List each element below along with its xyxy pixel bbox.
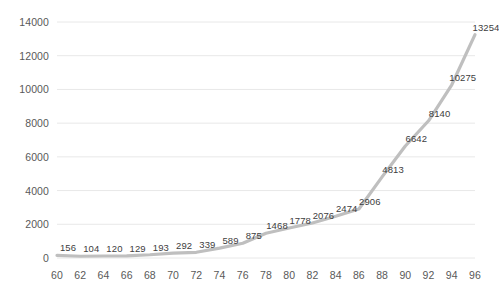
- y-axis-tick-label: 2000: [4, 218, 49, 230]
- data-point-label: 10275: [449, 72, 476, 83]
- x-axis-tick-label: 94: [446, 269, 458, 281]
- data-point-label: 2076: [313, 210, 335, 221]
- data-point-label: 120: [106, 243, 122, 254]
- x-axis-tick-label: 62: [74, 269, 86, 281]
- x-axis-tick-label: 84: [330, 269, 342, 281]
- y-axis-tick-label: 12000: [4, 50, 49, 62]
- data-point-label: 129: [130, 243, 146, 254]
- x-axis-tick-label: 74: [214, 269, 226, 281]
- y-axis-tick-label: 10000: [4, 83, 49, 95]
- data-point-label: 2906: [359, 196, 381, 207]
- x-axis-tick-label: 78: [260, 269, 272, 281]
- x-axis-tick-label: 88: [376, 269, 388, 281]
- x-axis-tick-label: 86: [353, 269, 365, 281]
- data-point-label: 156: [60, 242, 76, 253]
- x-axis-tick-label: 90: [399, 269, 411, 281]
- data-point-label: 1468: [266, 220, 288, 231]
- data-point-label: 104: [83, 243, 99, 254]
- data-point-label: 292: [176, 240, 192, 251]
- data-point-label: 875: [246, 230, 262, 241]
- y-axis-tick-label: 6000: [4, 151, 49, 163]
- x-axis-tick-label: 70: [167, 269, 179, 281]
- x-axis-tick-label: 92: [423, 269, 435, 281]
- data-point-label: 589: [222, 235, 238, 246]
- data-point-label: 6642: [406, 133, 428, 144]
- x-axis-tick-label: 80: [283, 269, 295, 281]
- x-axis-tick-label: 72: [190, 269, 202, 281]
- data-point-label: 193: [153, 242, 169, 253]
- x-axis-tick-label: 96: [469, 269, 481, 281]
- data-point-label: 8140: [429, 108, 451, 119]
- x-axis-tick-label: 76: [237, 269, 249, 281]
- x-axis-tick-label: 64: [97, 269, 109, 281]
- y-axis-tick-label: 0: [4, 252, 49, 264]
- x-axis-tick-label: 66: [121, 269, 133, 281]
- data-point-label: 1778: [289, 215, 311, 226]
- x-axis-tick-label: 82: [306, 269, 318, 281]
- data-point-label: 339: [199, 239, 215, 250]
- data-point-label: 13254: [473, 22, 499, 33]
- y-axis-tick-label: 4000: [4, 185, 49, 197]
- y-axis-tick-label: 14000: [4, 16, 49, 28]
- data-point-label: 4813: [382, 164, 404, 175]
- y-axis-tick-label: 8000: [4, 117, 49, 129]
- data-point-label: 2474: [336, 203, 358, 214]
- x-axis-tick-label: 68: [144, 269, 156, 281]
- x-axis-tick-label: 60: [51, 269, 63, 281]
